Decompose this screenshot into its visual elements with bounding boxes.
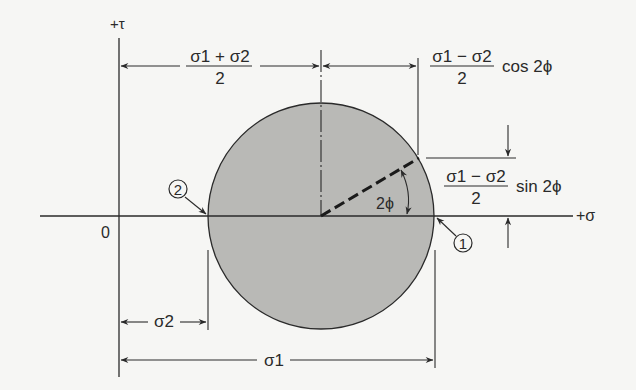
cos-dimension-numerator: σ1 − σ2 [432,47,491,66]
cos-dimension-suffix: cos 2ϕ [502,57,552,76]
sigma-axis-label: +σ [576,207,595,224]
sigma1-label: σ1 [264,351,284,370]
center-dimension-denominator: 2 [215,69,224,88]
angle-label: 2ϕ [376,195,394,212]
point-1-leader [437,218,456,236]
origin-label: 0 [101,224,110,241]
sigma2-label: σ2 [154,312,174,331]
cos-dimension-denominator: 2 [457,69,466,88]
point-2-label: 2 [174,181,182,198]
sin-dimension-numerator: σ1 − σ2 [446,167,505,186]
point-2-leader [185,197,206,214]
mohr-circle-diagram: +τ +σ 0 σ1 + σ2 2 σ1 − σ2 2 cos 2ϕ σ1 − … [0,0,636,390]
tau-axis-label: +τ [110,15,125,32]
center-dimension-numerator: σ1 + σ2 [190,47,249,66]
point-1-label: 1 [459,235,467,252]
sin-dimension-denominator: 2 [471,189,480,208]
sin-dimension-suffix: sin 2ϕ [516,177,561,196]
